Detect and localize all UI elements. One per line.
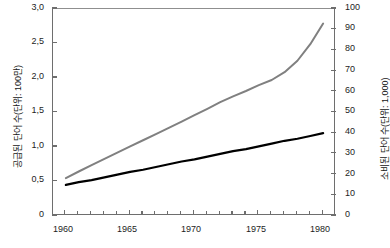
- y-tick-label-right-50: 50: [345, 106, 371, 115]
- y-tick-right-5: [331, 111, 336, 112]
- y-tick-right-4: [331, 132, 336, 133]
- x-tick-1966: [141, 211, 142, 215]
- y-tick-label-left-1_5: 1,5: [18, 106, 44, 115]
- x-tick-1978: [296, 211, 297, 215]
- x-tick-1972: [219, 211, 220, 215]
- y-tick-label-right-30: 30: [345, 148, 371, 157]
- y-tick-label-right-0: 0: [345, 210, 371, 219]
- y-tick-right-8: [331, 49, 336, 50]
- series-layer: [53, 9, 336, 216]
- series-line-consumed: [66, 23, 323, 178]
- x-tick-1970: [193, 210, 194, 215]
- y-axis-title-right: 소비된 단어 수(단위: 1,000): [380, 77, 390, 180]
- y-tick-left-5: [52, 42, 57, 43]
- x-tick-1969: [180, 211, 181, 215]
- y-tick-label-right-20: 20: [345, 169, 371, 178]
- y-tick-label-right-70: 70: [345, 65, 371, 74]
- y-tick-right-7: [331, 70, 336, 71]
- y-tick-label-right-80: 80: [345, 44, 371, 53]
- y-tick-label-right-90: 90: [345, 23, 371, 32]
- x-tick-label-1980: 1980: [302, 225, 338, 234]
- x-tick-1973: [231, 211, 232, 215]
- x-tick-1977: [283, 211, 284, 215]
- x-tick-1965: [129, 210, 130, 215]
- y-tick-right-10: [331, 7, 336, 8]
- x-tick-1975: [257, 210, 258, 215]
- y-tick-right-6: [331, 90, 336, 91]
- x-tick-1963: [103, 211, 104, 215]
- y-tick-label-left-3_0: 3,0: [18, 3, 44, 12]
- x-tick-label-1960: 1960: [45, 225, 81, 234]
- y-tick-right-1: [331, 194, 336, 195]
- x-tick-1964: [116, 211, 117, 215]
- y-tick-label-left-0_5: 0,5: [18, 175, 44, 184]
- x-tick-1976: [270, 211, 271, 215]
- y-tick-left-1: [52, 180, 57, 181]
- x-tick-1962: [90, 211, 91, 215]
- plot-inner: [53, 9, 334, 214]
- x-tick-1961: [77, 211, 78, 215]
- x-tick-1971: [206, 211, 207, 215]
- y-tick-left-6: [52, 7, 57, 8]
- y-tick-right-3: [331, 152, 336, 153]
- y-tick-label-right-60: 60: [345, 86, 371, 95]
- y-tick-label-left-2_0: 2,0: [18, 72, 44, 81]
- x-tick-1979: [309, 211, 310, 215]
- y-tick-right-0: [331, 214, 336, 215]
- y-tick-label-right-40: 40: [345, 127, 371, 136]
- y-tick-label-left-2_5: 2,5: [18, 37, 44, 46]
- y-tick-left-2: [52, 145, 57, 146]
- y-tick-right-2: [331, 173, 336, 174]
- x-tick-label-1970: 1970: [173, 225, 209, 234]
- x-tick-1980: [322, 210, 323, 215]
- y-tick-left-3: [52, 111, 57, 112]
- y-tick-label-left-0: 0: [18, 210, 44, 219]
- y-tick-label-right-10: 10: [345, 189, 371, 198]
- y-tick-left-0: [52, 214, 57, 215]
- x-tick-1967: [154, 211, 155, 215]
- y-tick-right-9: [331, 28, 336, 29]
- y-tick-left-4: [52, 76, 57, 77]
- x-tick-1960: [64, 210, 65, 215]
- plot-area: [52, 8, 335, 215]
- x-tick-1968: [167, 211, 168, 215]
- x-tick-label-1975: 1975: [238, 225, 274, 234]
- x-tick-1974: [244, 211, 245, 215]
- x-tick-label-1965: 1965: [109, 225, 145, 234]
- y-tick-label-left-1_0: 1,0: [18, 141, 44, 150]
- y-tick-label-right-100: 100: [345, 3, 371, 12]
